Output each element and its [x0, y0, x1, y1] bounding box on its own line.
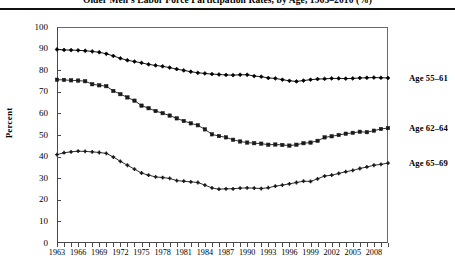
x-axis-tick — [325, 243, 326, 247]
x-axis-tick — [219, 243, 220, 247]
series-label-age-65-69: Age 65–69 — [409, 158, 448, 168]
x-axis-tick — [233, 243, 234, 247]
y-axis-tick — [57, 157, 61, 158]
x-axis-tick — [78, 243, 79, 247]
x-axis-tick — [282, 243, 283, 247]
x-axis-tick — [134, 243, 135, 247]
y-axis-tick — [57, 221, 61, 222]
x-axis-tick — [303, 243, 304, 247]
chart-figure: Older Men's Labor Force Participation Ra… — [0, 0, 455, 272]
x-axis-tick — [268, 243, 269, 247]
y-axis-tick-label: 20 — [14, 195, 48, 204]
x-axis-tick — [57, 243, 58, 247]
title-divider — [0, 8, 455, 10]
x-axis-tick — [205, 243, 206, 247]
x-axis-tick — [71, 243, 72, 247]
x-axis-tick — [113, 243, 114, 247]
y-axis-tick-label: 60 — [14, 109, 48, 118]
x-axis-tick — [184, 243, 185, 247]
x-axis-tick — [346, 243, 347, 247]
x-axis-tick — [170, 243, 171, 247]
y-axis-tick — [57, 200, 61, 201]
x-axis-tick — [106, 243, 107, 247]
y-axis-tick — [57, 70, 61, 71]
x-axis-tick — [149, 243, 150, 247]
x-axis-tick — [191, 243, 192, 247]
plot-area — [57, 27, 388, 243]
y-axis-tick — [57, 49, 61, 50]
y-axis-tick-label: 70 — [14, 87, 48, 96]
y-axis-title: Percent — [4, 93, 14, 153]
x-axis-tick — [318, 243, 319, 247]
x-axis-tick — [163, 243, 164, 247]
y-axis-tick-label: 10 — [14, 217, 48, 226]
x-axis-tick — [247, 243, 248, 247]
x-axis-tick — [156, 243, 157, 247]
x-axis-tick — [177, 243, 178, 247]
x-axis-tick — [64, 243, 65, 247]
x-axis-tick — [367, 243, 368, 247]
x-axis-tick — [332, 243, 333, 247]
x-axis-tick — [142, 243, 143, 247]
y-axis-tick-label: 30 — [14, 174, 48, 183]
x-axis-tick — [381, 243, 382, 247]
x-axis-tick — [254, 243, 255, 247]
x-axis-tick — [261, 243, 262, 247]
x-axis-tick — [99, 243, 100, 247]
x-axis-tick — [226, 243, 227, 247]
series-label-age-62-64: Age 62–64 — [409, 123, 448, 133]
x-axis-tick — [240, 243, 241, 247]
y-axis-tick-label: 80 — [14, 66, 48, 75]
y-axis-tick-label: 0 — [14, 239, 48, 248]
y-axis-tick — [57, 135, 61, 136]
x-axis-tick — [388, 243, 389, 247]
y-axis-tick-label: 90 — [14, 44, 48, 53]
x-axis-tick — [120, 243, 121, 247]
x-axis-tick — [212, 243, 213, 247]
y-axis-tick-label: 50 — [14, 131, 48, 140]
x-axis-tick — [311, 243, 312, 247]
x-axis-tick — [339, 243, 340, 247]
x-axis-tick — [374, 243, 375, 247]
x-axis-tick — [85, 243, 86, 247]
x-axis-tick — [127, 243, 128, 247]
x-axis-tick — [289, 243, 290, 247]
page-title: Older Men's Labor Force Participation Ra… — [0, 0, 455, 6]
x-axis-tick — [353, 243, 354, 247]
x-axis-tick — [92, 243, 93, 247]
y-axis-tick-label: 40 — [14, 152, 48, 161]
series-label-age-55-61: Age 55–61 — [409, 73, 448, 83]
y-axis-tick-label: 100 — [14, 23, 48, 32]
x-axis-tick — [360, 243, 361, 247]
x-axis-tick — [296, 243, 297, 247]
chart-title-container: Older Men's Labor Force Participation Ra… — [0, 0, 455, 8]
x-axis-tick-label: 2008 — [354, 248, 394, 257]
y-axis-tick — [57, 178, 61, 179]
y-axis-tick — [57, 92, 61, 93]
x-axis-tick — [275, 243, 276, 247]
x-axis-tick — [198, 243, 199, 247]
y-axis-tick — [57, 113, 61, 114]
